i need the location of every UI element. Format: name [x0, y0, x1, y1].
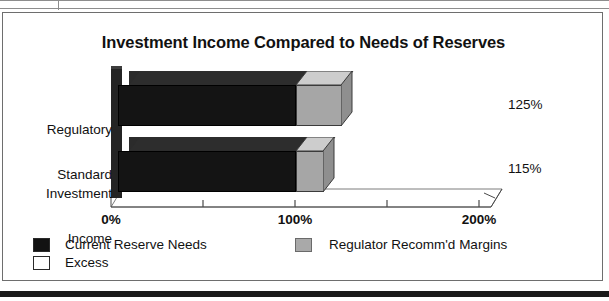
legend-swatch-gray-icon: [295, 238, 312, 252]
chart-container: Investment Income Compared to Needs of R…: [2, 12, 603, 281]
legend-swatch-white-icon: [33, 256, 50, 270]
xtick-label-200: 200%: [449, 212, 509, 227]
table-cell-divider: [58, 1, 59, 10]
page-table-fragment: [0, 0, 609, 9]
bar-investment-income[interactable]: [118, 137, 368, 193]
legend-label: Excess: [65, 255, 109, 270]
legend-label: Regulator Recomm'd Margins: [329, 237, 507, 252]
data-label-regulatory-standard: 125%: [508, 97, 543, 112]
chart-legend: Current Reserve Needs Excess Regulator R…: [3, 237, 604, 277]
category-label-line: Investment: [46, 186, 112, 201]
page-bottom-rule: [0, 291, 609, 297]
data-label-investment-income: 115%: [508, 161, 542, 176]
xtick-label-0: 0%: [81, 212, 141, 227]
legend-swatch-black-icon: [33, 238, 50, 252]
bar-regulatory-standard[interactable]: [118, 71, 378, 127]
xtick-label-100: 100%: [265, 212, 325, 227]
legend-label: Current Reserve Needs: [65, 237, 207, 252]
category-label-line: Regulatory: [47, 122, 112, 137]
